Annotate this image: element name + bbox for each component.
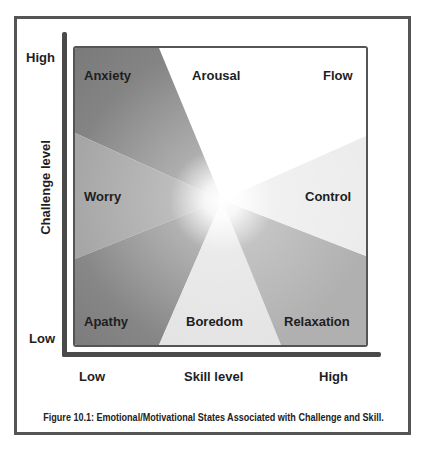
label-arousal: Arousal (192, 68, 240, 83)
label-control: Control (305, 189, 351, 204)
label-boredom: Boredom (186, 314, 243, 329)
label-flow: Flow (323, 68, 353, 83)
label-anxiety: Anxiety (84, 68, 131, 83)
y-axis-line (62, 32, 67, 357)
x-tick-high: High (319, 369, 348, 384)
y-axis-title: Challenge level (38, 133, 53, 243)
x-axis-title: Skill level (184, 369, 243, 384)
y-tick-high: High (26, 50, 55, 65)
label-relaxation: Relaxation (284, 314, 350, 329)
label-apathy: Apathy (84, 314, 128, 329)
x-axis-line (62, 352, 381, 357)
figure-caption: Figure 10.1: Emotional/Motivational Stat… (30, 411, 397, 423)
plot-area: Anxiety Arousal Flow Worry Control Apath… (73, 46, 368, 347)
x-tick-low: Low (79, 369, 105, 384)
label-worry: Worry (84, 189, 121, 204)
y-tick-low: Low (29, 331, 55, 346)
